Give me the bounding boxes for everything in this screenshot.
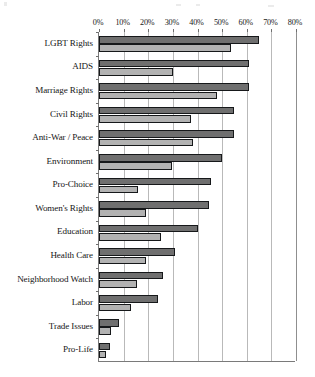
bar-chart: 0%10%20%30%40%50%60%70%80% LGBT RightsAI… [0, 0, 315, 377]
plot-area [98, 32, 295, 362]
bar-series-a [99, 154, 222, 162]
category-label: Trade Issues [0, 321, 93, 331]
y-tick [96, 221, 99, 222]
bar-row [99, 103, 295, 127]
bar-row [99, 244, 295, 268]
x-tick-label-40: 40% [189, 18, 203, 27]
category-label: Education [0, 226, 93, 236]
bar-series-a [99, 319, 119, 327]
y-tick [96, 56, 99, 57]
y-tick [96, 291, 99, 292]
category-label: Civil Rights [0, 109, 93, 119]
bar-rows [99, 32, 295, 361]
bar-row [99, 32, 295, 56]
bar-row [99, 197, 295, 221]
y-tick [96, 244, 99, 245]
bar-series-b [99, 351, 106, 359]
category-label: Labor [0, 297, 93, 307]
category-label: Women's Rights [0, 203, 93, 213]
bar-series-a [99, 36, 259, 44]
category-label: Neighborhood Watch [0, 274, 93, 284]
y-tick [96, 338, 99, 339]
bar-row [99, 173, 295, 197]
bar-row [99, 291, 295, 315]
scan-artifact [176, 4, 181, 6]
y-tick [96, 315, 99, 316]
bar-row [99, 79, 295, 103]
bar-series-a [99, 60, 249, 68]
bar-series-a [99, 130, 234, 138]
bar-row [99, 56, 295, 80]
gridline-80 [296, 32, 297, 361]
x-tick-label-30: 30% [165, 18, 179, 27]
x-tick-label-80: 80% [288, 18, 302, 27]
y-tick [96, 103, 99, 104]
category-label: Environment [0, 156, 93, 166]
category-label: Pro-Life [0, 344, 93, 354]
bar-series-a [99, 178, 211, 186]
scan-artifact [196, 4, 200, 6]
x-tick-label-70: 70% [263, 18, 277, 27]
x-tick-label-20: 20% [140, 18, 154, 27]
bar-series-b [99, 162, 172, 170]
y-tick [96, 173, 99, 174]
bar-series-b [99, 186, 138, 194]
bar-series-a [99, 343, 110, 351]
y-tick [96, 32, 99, 33]
x-tick-label-50: 50% [214, 18, 228, 27]
y-tick [96, 268, 99, 269]
bar-series-b [99, 304, 131, 312]
scan-artifact [4, 2, 7, 6]
y-tick [96, 126, 99, 127]
y-tick [96, 150, 99, 151]
bar-series-b [99, 233, 161, 241]
category-label: Anti-War / Peace [0, 132, 93, 142]
bar-row [99, 126, 295, 150]
bar-series-a [99, 225, 198, 233]
category-label: AIDS [0, 61, 93, 71]
category-label: LGBT Rights [0, 38, 93, 48]
bar-series-b [99, 92, 217, 100]
bar-series-b [99, 115, 191, 123]
bar-series-a [99, 248, 175, 256]
bar-series-a [99, 107, 234, 115]
bar-series-b [99, 327, 111, 335]
category-label: Pro-Choice [0, 179, 93, 189]
bar-series-b [99, 139, 193, 147]
bar-series-a [99, 295, 158, 303]
y-tick [96, 197, 99, 198]
bar-series-b [99, 280, 137, 288]
bar-series-a [99, 83, 249, 91]
bar-row [99, 315, 295, 339]
category-label: Marriage Rights [0, 85, 93, 95]
x-tick-80 [296, 29, 297, 32]
scan-artifact [268, 5, 274, 7]
x-tick-label-0: 0% [93, 18, 104, 27]
bar-row [99, 150, 295, 174]
y-tick [96, 79, 99, 80]
bar-series-a [99, 272, 163, 280]
bar-series-b [99, 209, 146, 217]
bar-series-b [99, 44, 231, 52]
category-label: Health Care [0, 250, 93, 260]
x-tick-label-10: 10% [115, 18, 129, 27]
bar-series-b [99, 68, 173, 76]
bar-row [99, 338, 295, 362]
bar-series-b [99, 257, 146, 265]
x-tick-label-60: 60% [239, 18, 253, 27]
bar-row [99, 268, 295, 292]
y-axis-category-labels: LGBT RightsAIDSMarriage RightsCivil Righ… [0, 32, 93, 362]
x-axis-tick-labels: 0%10%20%30%40%50%60%70%80% [98, 18, 295, 30]
bar-series-a [99, 201, 209, 209]
bar-row [99, 221, 295, 245]
